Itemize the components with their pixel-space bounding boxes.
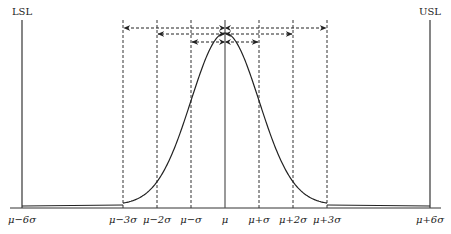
sigma-diagram bbox=[0, 0, 451, 234]
usl-label: USL bbox=[419, 6, 441, 17]
tick-label-minus-3sigma: μ−3σ bbox=[109, 214, 137, 225]
left-tail bbox=[22, 205, 123, 206]
tick-label-plus-6sigma: μ+6σ bbox=[416, 214, 444, 225]
tick-label-mu: μ bbox=[222, 214, 229, 225]
tick-label-minus-1sigma: μ−σ bbox=[180, 214, 202, 225]
lsl-label: LSL bbox=[12, 6, 32, 17]
tick-label-plus-3sigma: μ+3σ bbox=[313, 214, 341, 225]
tick-label-minus-2sigma: μ−2σ bbox=[143, 214, 171, 225]
tick-label-plus-2sigma: μ+2σ bbox=[279, 214, 307, 225]
tick-label-plus-1sigma: μ+σ bbox=[248, 214, 270, 225]
right-tail bbox=[327, 205, 430, 206]
tick-label-minus-6sigma: μ−6σ bbox=[8, 214, 36, 225]
